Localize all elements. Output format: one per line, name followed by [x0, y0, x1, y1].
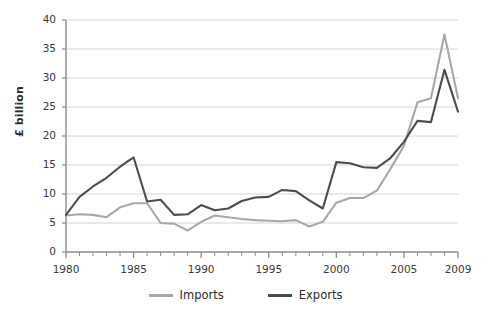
x-tick-label: 2005 — [384, 263, 424, 275]
x-tick-label: 2000 — [316, 263, 356, 275]
legend-label-exports: Exports — [299, 288, 343, 302]
x-tick-label: 1990 — [181, 263, 221, 275]
y-tick-label: 20 — [34, 129, 56, 141]
x-tick-label: 1995 — [249, 263, 289, 275]
x-tick-label: 1980 — [46, 263, 86, 275]
y-tick-label: 40 — [34, 13, 56, 25]
y-tick-label: 5 — [34, 216, 56, 228]
y-axis-title: £ billion — [13, 67, 26, 157]
legend-swatch-exports — [268, 294, 292, 297]
chart-legend: Imports Exports — [0, 288, 491, 302]
legend-item-imports: Imports — [149, 288, 224, 302]
gridlines — [66, 20, 458, 223]
data-series-layer — [66, 35, 458, 231]
chart-container: £ billion 0510152025303540 1980198519901… — [0, 0, 491, 317]
legend-swatch-imports — [149, 294, 173, 297]
y-tick-label: 25 — [34, 100, 56, 112]
x-tick-label: 2009 — [438, 263, 478, 275]
x-tick-label: 1985 — [114, 263, 154, 275]
legend-label-imports: Imports — [180, 288, 224, 302]
y-tick-label: 0 — [34, 245, 56, 257]
y-tick-label: 15 — [34, 158, 56, 170]
y-tick-label: 35 — [34, 42, 56, 54]
y-tick-label: 10 — [34, 187, 56, 199]
legend-item-exports: Exports — [268, 288, 343, 302]
y-tick-label: 30 — [34, 71, 56, 83]
x-axis-ticks — [66, 252, 458, 258]
